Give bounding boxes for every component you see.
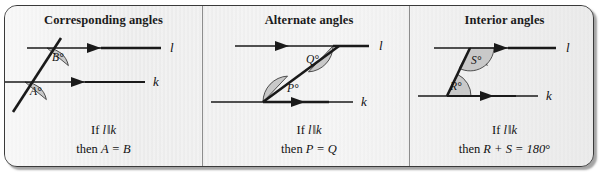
- arrowhead-l: [275, 41, 289, 51]
- caption-result-body: P = Q: [306, 142, 337, 156]
- caption-result-prefix: then: [76, 142, 101, 156]
- panel-corresponding-angles: Corresponding angles l k B° A: [5, 6, 202, 166]
- caption-result-prefix: then: [459, 142, 484, 156]
- panel-title: Corresponding angles: [5, 13, 202, 28]
- caption-result-body: A = B: [101, 142, 131, 156]
- panel-caption-condition: If l‖k: [416, 123, 593, 138]
- caption-result-body: R + S = 180: [483, 142, 545, 156]
- caption-result-suffix: °: [545, 142, 550, 156]
- line-label-l: l: [566, 40, 570, 55]
- panel-caption-condition: If l‖k: [5, 123, 202, 138]
- arrowhead-k: [71, 77, 85, 87]
- panel-alternate-angles: Alternate angles l k Q°: [209, 6, 409, 166]
- angle-label-P: P°: [286, 82, 299, 94]
- alternate-angles-diagram: l k Q° P°: [209, 30, 409, 116]
- caption-prefix: If: [91, 123, 102, 137]
- geometry-reference-card: Corresponding angles l k B° A: [4, 5, 594, 167]
- panel-divider-2: [409, 6, 410, 166]
- panel-interior-angles: Interior angles l: [416, 6, 593, 166]
- line-label-l: l: [379, 38, 383, 53]
- arrowhead-l: [87, 43, 101, 53]
- panel-divider-1: [202, 6, 203, 166]
- line-label-k: k: [153, 74, 159, 89]
- angle-label-R: R°: [449, 80, 462, 92]
- transversal-line: [13, 38, 61, 112]
- caption-line-k: k: [110, 123, 116, 137]
- panel-caption-result: then A = B: [5, 142, 202, 157]
- transversal-line: [263, 46, 339, 102]
- panel-title: Interior angles: [416, 13, 593, 28]
- line-label-l: l: [170, 40, 174, 55]
- line-label-k: k: [361, 94, 367, 109]
- caption-result-prefix: then: [281, 142, 306, 156]
- caption-prefix: If: [492, 123, 503, 137]
- angle-label-Q: Q°: [306, 53, 319, 65]
- arrowhead-l: [494, 43, 508, 53]
- wedge-helper: [470, 30, 494, 48]
- angle-label-B: B°: [52, 51, 64, 63]
- caption-prefix: If: [296, 123, 307, 137]
- panel-title: Alternate angles: [209, 13, 409, 28]
- interior-angles-diagram: l k S° R°: [416, 30, 593, 116]
- corresponding-angles-diagram: l k B° A°: [5, 30, 202, 116]
- panel-caption-result: then P = Q: [209, 142, 409, 157]
- panel-caption-condition: If l‖k: [209, 123, 409, 138]
- caption-line-k: k: [316, 123, 322, 137]
- panel-caption-result: then R + S = 180°: [416, 142, 593, 157]
- angle-label-A: A°: [29, 85, 42, 97]
- angle-label-S: S°: [471, 54, 482, 66]
- caption-line-k: k: [511, 123, 517, 137]
- line-label-k: k: [546, 88, 552, 103]
